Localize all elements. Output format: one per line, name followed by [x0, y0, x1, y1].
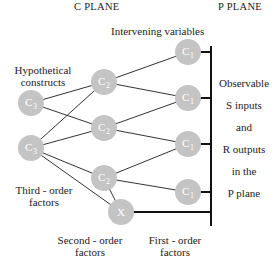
svg-text:C: C [182, 185, 189, 197]
svg-text:2: 2 [106, 81, 110, 90]
svg-text:X: X [117, 206, 125, 218]
svg-text:C: C [25, 96, 32, 108]
svg-text:3: 3 [33, 102, 37, 111]
third-order-label: Third - order factors [14, 184, 74, 208]
svg-text:2: 2 [106, 177, 110, 186]
svg-text:C: C [182, 137, 189, 149]
svg-text:2: 2 [106, 127, 110, 136]
svg-text:C: C [98, 121, 105, 133]
svg-text:1: 1 [190, 97, 194, 106]
c-plane-header: C PLANE [74, 1, 120, 13]
svg-text:1: 1 [190, 143, 194, 152]
svg-text:1: 1 [190, 51, 194, 60]
svg-text:C: C [182, 45, 189, 57]
hypothetical-constructs-label: Hypothetical constructs [13, 64, 73, 88]
first-order-label: First - order factors [147, 234, 203, 258]
svg-text:C: C [98, 75, 105, 87]
svg-text:3: 3 [33, 147, 37, 156]
svg-text:C: C [25, 141, 32, 153]
intervening-variables-label: Intervening variables [111, 25, 204, 37]
second-order-label: Second - order factors [57, 234, 123, 258]
svg-text:1: 1 [190, 191, 194, 200]
p-plane-header: P PLANE [218, 1, 262, 13]
svg-text:C: C [182, 91, 189, 103]
svg-text:C: C [98, 171, 105, 183]
observable-label: Observable S inputs and R outputs in the… [213, 72, 275, 204]
